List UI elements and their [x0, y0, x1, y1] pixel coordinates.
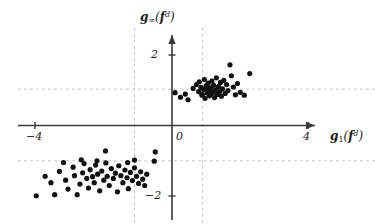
- data-point: [227, 62, 232, 67]
- data-point: [77, 182, 82, 187]
- data-point: [90, 174, 95, 179]
- data-point: [63, 178, 68, 183]
- data-point: [136, 181, 141, 186]
- data-point: [178, 95, 183, 100]
- data-point: [197, 79, 202, 84]
- data-point: [125, 160, 130, 165]
- data-point: [118, 173, 123, 178]
- data-point: [71, 165, 76, 170]
- data-point: [120, 180, 125, 185]
- data-point: [52, 192, 57, 197]
- y-axis-arrow-icon: [168, 35, 175, 44]
- data-point: [34, 193, 39, 198]
- plot-canvas: [0, 0, 375, 224]
- y-axis-label-sub: ∞: [148, 16, 155, 25]
- data-point: [80, 170, 85, 175]
- data-point: [43, 174, 48, 179]
- data-point: [247, 71, 252, 76]
- x-tick-label-0: 0: [176, 130, 183, 143]
- data-point: [183, 91, 188, 96]
- data-point: [103, 148, 108, 153]
- data-point: [97, 188, 102, 193]
- data-point: [99, 168, 104, 173]
- data-point: [153, 149, 158, 154]
- data-point: [132, 165, 137, 170]
- data-point: [191, 86, 196, 91]
- data-point: [111, 176, 116, 181]
- data-point: [242, 93, 247, 98]
- data-point: [229, 73, 234, 78]
- y-axis-label-arg-sup: d: [165, 10, 170, 19]
- data-point: [205, 86, 210, 91]
- data-point: [75, 192, 80, 197]
- data-point: [116, 163, 121, 168]
- data-point: [128, 170, 133, 175]
- data-point: [142, 183, 147, 188]
- data-point: [88, 167, 93, 172]
- data-point: [103, 160, 108, 165]
- data-point: [225, 88, 230, 93]
- data-point: [220, 86, 225, 91]
- data-point: [144, 172, 149, 177]
- data-point: [132, 157, 137, 162]
- data-point: [134, 174, 139, 179]
- data-point: [109, 166, 114, 171]
- y-tick-label-2: 2: [151, 48, 158, 61]
- x-tick-label-neg4: −4: [26, 130, 42, 143]
- data-point: [95, 172, 100, 177]
- data-point: [233, 92, 238, 97]
- data-point: [57, 169, 62, 174]
- data-point: [86, 185, 91, 190]
- data-point: [152, 159, 157, 164]
- x-axis-label: g1(fd): [330, 129, 363, 144]
- data-point: [214, 75, 219, 80]
- data-point: [115, 189, 120, 194]
- data-point: [107, 183, 112, 188]
- scatter-plot-figure: g∞(fd) g1(fd) −4 0 4 2 −2: [0, 0, 375, 224]
- data-point: [105, 174, 110, 179]
- axes-group: [18, 35, 315, 220]
- data-point: [122, 167, 127, 172]
- data-point: [101, 178, 106, 183]
- data-point: [210, 90, 215, 95]
- data-point: [211, 83, 216, 88]
- data-point: [172, 90, 177, 95]
- y-tick-label-neg2: −2: [145, 189, 161, 202]
- data-point: [72, 173, 77, 178]
- data-point: [79, 157, 84, 162]
- data-point: [199, 92, 204, 97]
- data-point: [231, 84, 236, 89]
- data-point: [126, 186, 131, 191]
- data-point: [84, 176, 89, 181]
- data-points-group: [34, 62, 253, 198]
- data-point: [224, 82, 229, 87]
- data-point: [61, 160, 66, 165]
- data-point: [138, 169, 143, 174]
- y-axis-label: g∞(fd): [140, 10, 175, 25]
- data-point: [130, 178, 135, 183]
- data-point: [185, 97, 190, 102]
- x-axis-label-sub: 1: [338, 135, 343, 144]
- data-point: [124, 175, 129, 180]
- x-tick-label-4: 4: [303, 130, 310, 143]
- data-point: [113, 171, 118, 176]
- data-point: [140, 177, 145, 182]
- data-point: [94, 158, 99, 163]
- data-point: [235, 81, 240, 86]
- data-point: [65, 186, 70, 191]
- x-axis-label-arg-sup: d: [353, 129, 358, 138]
- data-point: [92, 180, 97, 185]
- data-point: [48, 180, 53, 185]
